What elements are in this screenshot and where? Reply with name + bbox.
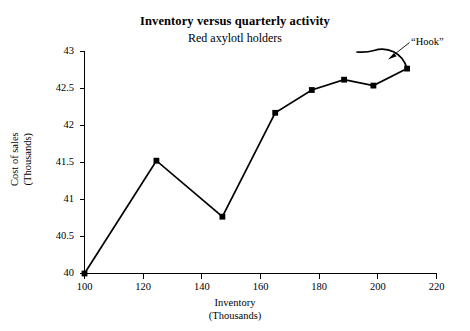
- x-tick-label-120: 120: [123, 281, 163, 292]
- y-tick-label-43: 43: [36, 45, 74, 56]
- data-series-line: [85, 69, 408, 274]
- y-tick-label-41: 41: [36, 193, 74, 204]
- y-axis-title-line1: Cost of sales: [9, 132, 20, 186]
- x-tick-label-180: 180: [299, 281, 339, 292]
- y-tick-label-40: 40: [36, 267, 74, 278]
- x-tick-label-100: 100: [65, 281, 105, 292]
- y-axis-ticks: [80, 52, 85, 274]
- y-tick-label-41-5: 41.5: [36, 156, 74, 167]
- x-axis-title: Inventory (Thousands): [0, 296, 470, 322]
- x-axis-title-line2: (Thousands): [0, 309, 470, 322]
- y-tick-label-42: 42: [36, 119, 74, 130]
- x-tick-label-140: 140: [182, 281, 222, 292]
- y-tick-label-40-5: 40.5: [36, 230, 74, 241]
- y-axis-title: Cost of sales (Thousands): [8, 99, 34, 219]
- x-axis-ticks: [85, 274, 437, 279]
- x-axis-title-line1: Inventory: [215, 297, 256, 308]
- y-axis-title-line2: (Thousands): [21, 99, 34, 219]
- hook-curve: [357, 49, 407, 68]
- chart-container: Inventory versus quarterly activity Red …: [0, 0, 470, 331]
- hook-annotation-label: “Hook”: [411, 36, 444, 47]
- x-tick-label-200: 200: [358, 281, 398, 292]
- x-tick-label-220: 220: [417, 281, 457, 292]
- y-tick-label-42-5: 42.5: [36, 82, 74, 93]
- x-tick-label-160: 160: [241, 281, 281, 292]
